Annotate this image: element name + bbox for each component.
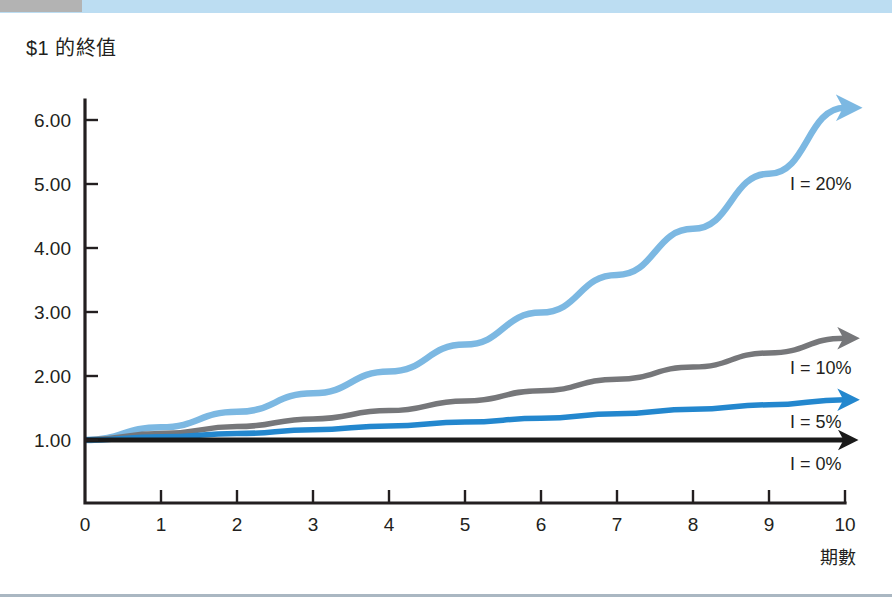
y-tick-label: 5.00 [34,174,71,195]
y-tick-label: 2.00 [34,366,71,387]
x-tick-label: 9 [764,514,775,535]
x-tick-label: 10 [834,514,855,535]
series-label-i0%: I = 0% [790,454,842,474]
x-tick-label: 0 [80,514,91,535]
y-tick-label: 3.00 [34,302,71,323]
line-chart: I = 20%I = 10%I = 5%I = 0%1.002.003.004.… [0,0,892,612]
x-tick-label: 7 [612,514,623,535]
x-tick-label: 2 [232,514,243,535]
y-tick-label: 1.00 [34,430,71,451]
x-tick-label: 8 [688,514,699,535]
y-tick-label: 4.00 [34,238,71,259]
y-tick-label: 6.00 [34,110,71,131]
series-line-i20% [85,108,845,440]
labels-layer: I = 20%I = 10%I = 5%I = 0%1.002.003.004.… [34,110,856,568]
x-tick-label: 1 [156,514,167,535]
x-tick-label: 4 [384,514,395,535]
x-axis-title: 期數 [820,548,856,568]
series-label-i20%: I = 20% [790,174,852,194]
x-tick-label: 6 [536,514,547,535]
chart-page: $1 的終值 I = 20%I = 10%I = 5%I = 0%1.002.0… [0,0,892,612]
bottom-divider [0,594,892,597]
axis-lines [85,100,845,503]
axes-layer [85,100,845,503]
series-label-i10%: I = 10% [790,358,852,378]
series-label-i5%: I = 5% [790,412,842,432]
x-tick-label: 5 [460,514,471,535]
x-tick-label: 3 [308,514,319,535]
series-layer [85,108,845,440]
